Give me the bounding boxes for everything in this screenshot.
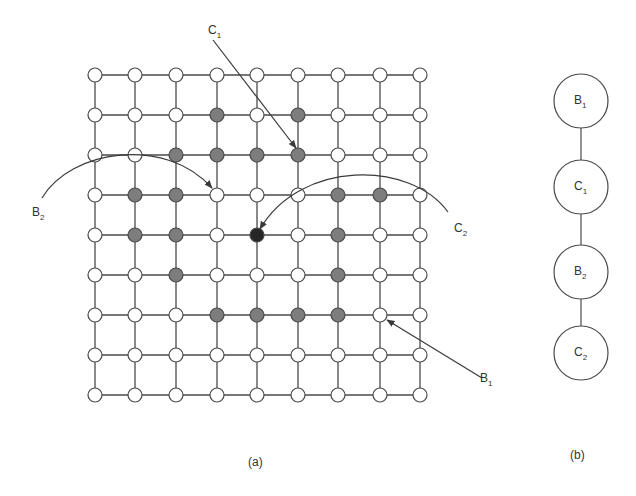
grid-node-shaded <box>169 148 183 162</box>
grid-node <box>413 108 427 122</box>
label-b2: B2 <box>32 205 45 222</box>
grid-node <box>413 188 427 202</box>
grid-node <box>250 268 264 282</box>
grid-node <box>413 388 427 402</box>
grid-node <box>250 108 264 122</box>
grid-node <box>88 108 102 122</box>
caption-a: (a) <box>248 455 263 469</box>
grid-node-shaded <box>331 228 345 242</box>
grid-node-shaded <box>291 108 305 122</box>
grid-node <box>128 308 142 322</box>
grid-node-shaded <box>210 308 224 322</box>
grid-node <box>291 348 305 362</box>
grid-node-shaded <box>250 148 264 162</box>
label-c1: C1 <box>208 23 222 40</box>
grid-node-shaded <box>169 268 183 282</box>
grid-node <box>373 348 387 362</box>
grid-node-shaded <box>128 228 142 242</box>
grid-node <box>250 188 264 202</box>
grid-node <box>373 388 387 402</box>
grid-node <box>128 388 142 402</box>
grid-node <box>88 68 102 82</box>
grid-node <box>88 228 102 242</box>
grid-node <box>250 68 264 82</box>
grid-node <box>169 308 183 322</box>
grid-node <box>291 68 305 82</box>
grid-node <box>210 68 224 82</box>
grid-node-shaded <box>291 308 305 322</box>
grid-node <box>169 108 183 122</box>
grid-node <box>210 348 224 362</box>
grid-node <box>331 148 345 162</box>
grid-node <box>210 228 224 242</box>
grid-node <box>128 108 142 122</box>
grid-node <box>128 348 142 362</box>
grid-node-shaded <box>169 228 183 242</box>
grid-node <box>88 268 102 282</box>
grid-node-shaded <box>331 188 345 202</box>
grid-node <box>128 68 142 82</box>
grid-node <box>373 68 387 82</box>
grid-node <box>250 388 264 402</box>
grid-node <box>128 268 142 282</box>
grid-node-shaded <box>331 308 345 322</box>
grid-node <box>169 348 183 362</box>
grid-node <box>331 348 345 362</box>
grid-node <box>210 388 224 402</box>
grid-node <box>88 388 102 402</box>
grid-node <box>413 268 427 282</box>
tree-panel: B1C1B2C2 <box>554 74 608 380</box>
grid-node-shaded <box>210 108 224 122</box>
grid-node <box>88 308 102 322</box>
grid-node <box>291 388 305 402</box>
grid-node <box>413 228 427 242</box>
label-b1: B1 <box>480 371 493 388</box>
caption-b: (b) <box>570 448 585 462</box>
grid-node-shaded <box>331 268 345 282</box>
arrow-c1 <box>213 40 296 148</box>
grid-node-shaded <box>250 308 264 322</box>
arrow-b2 <box>42 155 212 198</box>
grid-node <box>210 188 224 202</box>
grid-node <box>413 308 427 322</box>
grid-node-shaded <box>373 188 387 202</box>
grid-node <box>373 108 387 122</box>
grid-node <box>413 348 427 362</box>
grid-node <box>331 108 345 122</box>
grid-node <box>169 388 183 402</box>
annotation-arrows <box>42 40 482 378</box>
tree-decomposition-figure: C1B2C2B1 (a) B1C1B2C2 (b) <box>0 0 636 496</box>
grid-node <box>331 68 345 82</box>
arrow-b1 <box>387 320 482 378</box>
grid-node <box>291 228 305 242</box>
grid-node-dark <box>250 228 264 242</box>
grid-node <box>413 148 427 162</box>
grid-node-shaded <box>291 148 305 162</box>
grid-nodes <box>88 68 427 402</box>
grid-node <box>88 348 102 362</box>
grid-node <box>331 388 345 402</box>
grid-node <box>210 268 224 282</box>
grid-node-shaded <box>128 188 142 202</box>
grid-node <box>373 268 387 282</box>
grid-node-shaded <box>169 188 183 202</box>
grid-node <box>88 188 102 202</box>
grid-node <box>373 308 387 322</box>
label-c2: C2 <box>454 221 468 238</box>
grid-node <box>291 268 305 282</box>
grid-node <box>250 348 264 362</box>
grid-node-shaded <box>210 148 224 162</box>
grid-node <box>169 68 183 82</box>
grid-node <box>413 68 427 82</box>
grid-node <box>373 148 387 162</box>
grid-node <box>373 228 387 242</box>
